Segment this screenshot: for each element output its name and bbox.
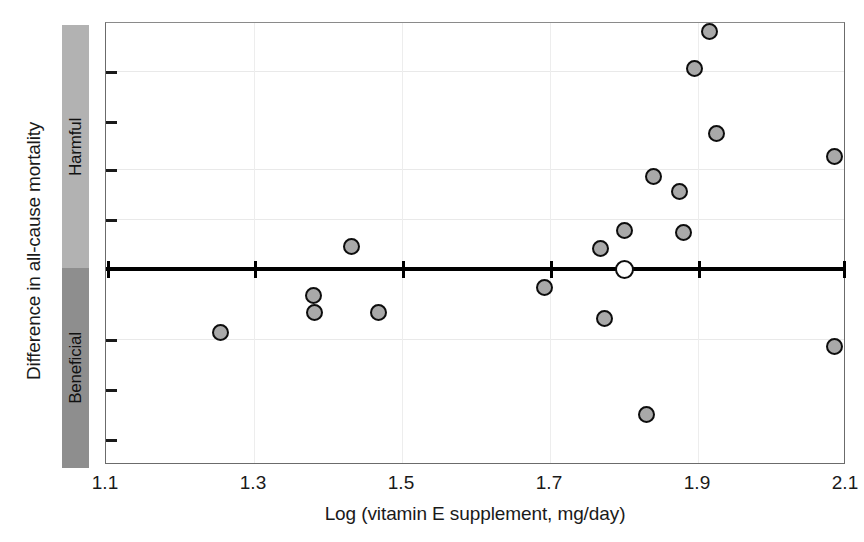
gridline-horizontal — [106, 219, 844, 220]
chart-figure: Difference in all-cause mortality Harmfu… — [0, 0, 864, 542]
x-axis-tick-label: 2.1 — [832, 472, 858, 494]
x-axis-tick — [550, 261, 553, 278]
data-point-marker — [701, 23, 718, 40]
data-point-marker — [370, 304, 387, 321]
x-axis-tick-label: 1.1 — [92, 472, 118, 494]
beneficial-band: Beneficial — [62, 268, 89, 468]
data-point-marker — [645, 168, 662, 185]
data-point-marker — [675, 224, 692, 241]
y-axis-tick — [106, 71, 117, 74]
gridline-vertical — [254, 23, 255, 463]
x-axis-tick — [254, 261, 257, 278]
x-axis-tick — [107, 261, 110, 278]
beneficial-band-label: Beneficial — [66, 332, 86, 404]
zero-reference-line — [106, 267, 844, 271]
data-point-marker — [671, 183, 688, 200]
y-axis-title: Difference in all-cause mortality — [23, 86, 45, 416]
data-point-marker — [305, 287, 322, 304]
plot-area — [105, 22, 845, 464]
x-axis-tick-label: 1.5 — [388, 472, 414, 494]
y-axis-tick — [106, 121, 117, 124]
y-axis-tick — [106, 439, 117, 442]
x-axis-tick-label: 1.7 — [536, 472, 562, 494]
x-axis-tick-label: 1.9 — [684, 472, 710, 494]
gridline-vertical — [402, 23, 403, 463]
x-axis-tick — [402, 261, 405, 278]
data-point-marker — [616, 222, 633, 239]
pooled-estimate-marker — [615, 260, 634, 279]
gridline-horizontal — [106, 71, 844, 72]
harmful-band-label: Harmful — [66, 117, 86, 175]
plot-canvas — [106, 23, 844, 463]
data-point-marker — [686, 60, 703, 77]
data-point-marker — [592, 240, 609, 257]
y-axis-tick — [106, 219, 117, 222]
data-point-marker — [638, 406, 655, 423]
x-axis-title: Log (vitamin E supplement, mg/day) — [105, 503, 845, 525]
y-axis-tick — [106, 169, 117, 172]
gridline-vertical — [698, 23, 699, 463]
harmful-band: Harmful — [62, 25, 89, 268]
y-axis-tick — [106, 389, 117, 392]
data-point-marker — [826, 338, 843, 355]
data-point-marker — [306, 304, 323, 321]
gridline-vertical — [550, 23, 551, 463]
data-point-marker — [343, 238, 360, 255]
x-axis-tick-label: 1.3 — [240, 472, 266, 494]
gridline-horizontal — [106, 169, 844, 170]
data-point-marker — [708, 125, 725, 142]
data-point-marker — [826, 148, 843, 165]
x-axis-tick — [843, 261, 846, 278]
x-axis-tick — [698, 261, 701, 278]
y-axis-tick — [106, 339, 117, 342]
data-point-marker — [596, 310, 613, 327]
